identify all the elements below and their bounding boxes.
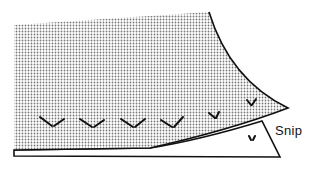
snip-label: Snip [275,123,302,138]
fabric-diagram [0,0,321,171]
